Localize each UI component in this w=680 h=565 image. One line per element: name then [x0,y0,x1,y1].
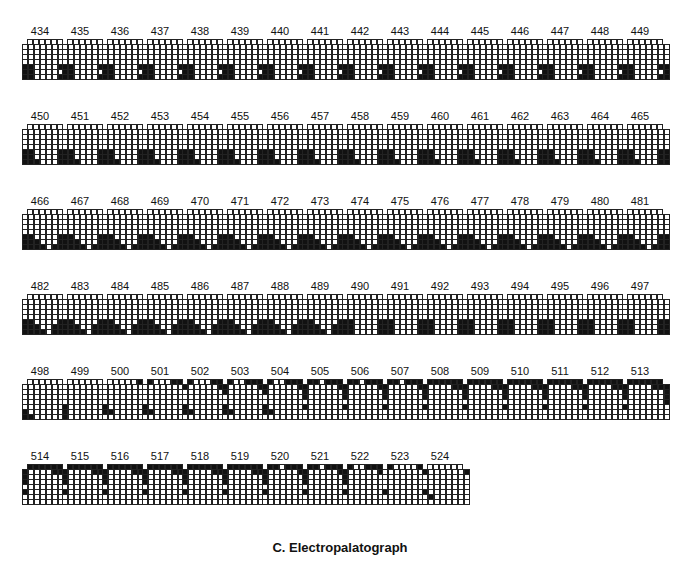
frame-number: 491 [382,280,418,292]
frame-number: 471 [222,195,258,207]
frame-number: 490 [342,280,378,292]
frame-number: 465 [622,110,658,122]
electrode-cell [464,499,470,505]
frame-number: 441 [302,25,338,37]
frame-number: 456 [262,110,298,122]
frame-number: 442 [342,25,378,37]
frame-number: 454 [182,110,218,122]
frame-number: 476 [422,195,458,207]
frame-number: 504 [262,365,298,377]
frame-number: 523 [382,450,418,462]
frame-number: 466 [22,195,58,207]
frame-number: 453 [142,110,178,122]
frame-number: 493 [462,280,498,292]
frame-number: 464 [582,110,618,122]
frame-number: 445 [462,25,498,37]
frame-number: 455 [222,110,258,122]
frame-number: 488 [262,280,298,292]
frame-number: 457 [302,110,338,122]
frame-number: 446 [502,25,538,37]
frame-number: 512 [582,365,618,377]
electrode-grid [622,39,670,79]
frame-number: 522 [342,450,378,462]
frame-number: 473 [302,195,338,207]
frame-number: 449 [622,25,658,37]
frame-number: 505 [302,365,338,377]
frame-number: 463 [542,110,578,122]
frame-number: 460 [422,110,458,122]
frame-number: 517 [142,450,178,462]
frame-number: 447 [542,25,578,37]
frame-number: 440 [262,25,298,37]
electrode-grid [622,294,670,334]
frame-number: 515 [62,450,98,462]
frame-number: 494 [502,280,538,292]
frame-number: 487 [222,280,258,292]
frame-number: 467 [62,195,98,207]
frame-number: 485 [142,280,178,292]
frame-number: 497 [622,280,658,292]
frame-number: 498 [22,365,58,377]
frame-number: 472 [262,195,298,207]
frame-number: 444 [422,25,458,37]
frame-number: 459 [382,110,418,122]
frame-number: 458 [342,110,378,122]
frame-number: 502 [182,365,218,377]
frame-number: 524 [422,450,458,462]
frame-number: 486 [182,280,218,292]
frame-number: 468 [102,195,138,207]
frame-number: 518 [182,450,218,462]
frame-number: 436 [102,25,138,37]
frame-number: 520 [262,450,298,462]
frame-number: 478 [502,195,538,207]
frame-number: 448 [582,25,618,37]
electrode-cell [664,414,670,420]
frame-number: 483 [62,280,98,292]
frame-number: 443 [382,25,418,37]
frame-number: 475 [382,195,418,207]
frame-number: 484 [102,280,138,292]
frame-number: 506 [342,365,378,377]
frame-number: 450 [22,110,58,122]
figure-caption: C. Electropalatograph [0,540,680,555]
frame-number: 437 [142,25,178,37]
frame-number: 519 [222,450,258,462]
frame-number: 495 [542,280,578,292]
frame-number: 480 [582,195,618,207]
electrode-grid [622,209,670,249]
frame-number: 521 [302,450,338,462]
frame-number: 470 [182,195,218,207]
frame-number: 507 [382,365,418,377]
frame-number: 516 [102,450,138,462]
frame-number: 451 [62,110,98,122]
frame-number: 477 [462,195,498,207]
electrode-cell [664,244,670,250]
frame-number: 481 [622,195,658,207]
frame-number: 496 [582,280,618,292]
frame-number: 435 [62,25,98,37]
frame-number: 511 [542,365,578,377]
frame-number: 510 [502,365,538,377]
electrode-grid [422,464,470,504]
electrode-cell [664,329,670,335]
frame-number: 514 [22,450,58,462]
frame-number: 462 [502,110,538,122]
frame-number: 474 [342,195,378,207]
frame-number: 503 [222,365,258,377]
frame-number: 489 [302,280,338,292]
frame-number: 434 [22,25,58,37]
frame-number: 479 [542,195,578,207]
frame-number: 492 [422,280,458,292]
frame-number: 438 [182,25,218,37]
frame-number: 508 [422,365,458,377]
frame-number: 513 [622,365,658,377]
electrode-grid [622,379,670,419]
frame-number: 499 [62,365,98,377]
frame-number: 501 [142,365,178,377]
frame-number: 461 [462,110,498,122]
electrode-grid [622,124,670,164]
frame-number: 439 [222,25,258,37]
frame-number: 469 [142,195,178,207]
frame-number: 452 [102,110,138,122]
frame-number: 509 [462,365,498,377]
